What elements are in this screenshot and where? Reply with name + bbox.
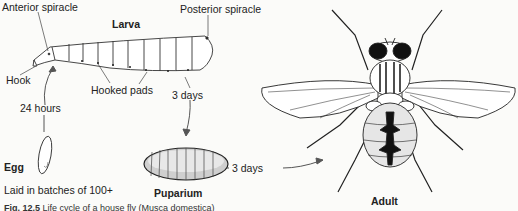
adult-fly-illustration [262, 10, 516, 192]
label-egg-to-larva-duration: 24 hours [20, 103, 61, 114]
label-hooked-pads: Hooked pads [91, 85, 153, 96]
label-hook: Hook [6, 75, 31, 86]
larva-illustration [33, 36, 213, 72]
label-posterior-spiracle: Posterior spiracle [180, 4, 261, 15]
label-adult: Adult [371, 196, 398, 207]
label-puparium: Puparium [154, 188, 202, 199]
label-larva-to-puparium-duration: 3 days [172, 90, 203, 101]
figure-caption-text: Life cycle of a house fly (Musca domesti… [43, 203, 215, 211]
figure-caption: Fig. 12.5 Life cycle of a house fly (Mus… [4, 203, 215, 211]
egg-illustration [36, 135, 54, 175]
figure-number: Fig. 12.5 [4, 203, 40, 211]
life-cycle-drawing [0, 0, 518, 211]
label-anterior-spiracle: Anterior spiracle [2, 2, 78, 13]
label-puparium-to-adult-duration: 3 days [232, 163, 263, 174]
label-egg: Egg [4, 162, 24, 173]
puparium-illustration [144, 148, 228, 180]
label-egg-note: Laid in batches of 100+ [4, 185, 113, 196]
label-larva: Larva [112, 19, 140, 30]
